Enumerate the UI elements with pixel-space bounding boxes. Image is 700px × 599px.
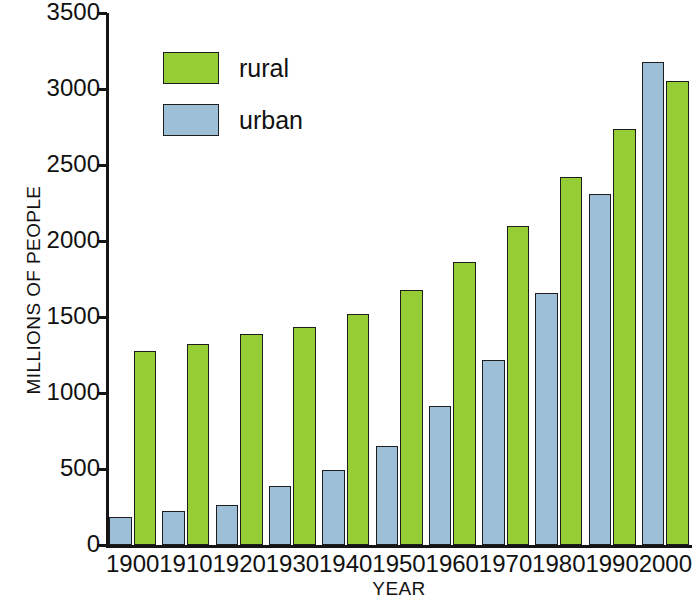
bar-urban-1950 bbox=[376, 446, 399, 545]
x-axis-tick-label-1990: 1990 bbox=[583, 549, 640, 579]
y-axis-tick-label: 3000 bbox=[34, 76, 100, 100]
x-axis-tick-label-2000: 2000 bbox=[637, 549, 694, 579]
bar-urban-1900 bbox=[109, 517, 132, 545]
bar-urban-2000 bbox=[642, 62, 665, 545]
y-axis-tick-label: 3500 bbox=[34, 0, 100, 24]
x-axis-tick-label-1950: 1950 bbox=[370, 549, 427, 579]
bar-rural-1900 bbox=[134, 351, 157, 545]
bar-rural-1990 bbox=[613, 129, 636, 545]
bar-rural-1940 bbox=[347, 314, 370, 545]
legend-swatch-rural bbox=[163, 52, 219, 84]
bar-rural-1910 bbox=[187, 344, 210, 545]
bar-rural-1950 bbox=[400, 290, 423, 545]
bar-urban-1920 bbox=[216, 505, 239, 545]
legend-entry-urban: urban bbox=[163, 104, 363, 156]
legend-swatch-urban bbox=[163, 104, 219, 136]
x-axis-tick-label-1980: 1980 bbox=[530, 549, 587, 579]
bar-urban-1990 bbox=[589, 194, 612, 545]
x-axis-tick-label-1920: 1920 bbox=[211, 549, 268, 579]
x-axis-tick-label-1930: 1930 bbox=[264, 549, 321, 579]
x-axis-tick-label-1900: 1900 bbox=[104, 549, 161, 579]
bar-urban-1980 bbox=[535, 293, 558, 545]
bar-urban-1930 bbox=[269, 486, 292, 545]
y-axis-tick-label: 0 bbox=[34, 532, 100, 556]
x-axis-tick-label-1940: 1940 bbox=[317, 549, 374, 579]
x-axis-tick-labels: 1900191019201930194019501960197019801990… bbox=[106, 549, 692, 581]
x-axis-tick-label-1970: 1970 bbox=[477, 549, 534, 579]
bar-urban-1960 bbox=[429, 406, 452, 545]
legend-label-rural: rural bbox=[239, 53, 289, 83]
x-axis-tick-label-1960: 1960 bbox=[424, 549, 481, 579]
legend-entry-rural: rural bbox=[163, 52, 363, 104]
y-axis-tick-label: 2500 bbox=[34, 152, 100, 176]
y-axis-tick-labels: 0500100015002000250030003500 bbox=[24, 0, 100, 599]
y-axis-tick-label: 1500 bbox=[34, 304, 100, 328]
legend-label-urban: urban bbox=[239, 105, 303, 135]
y-axis-tick-label: 2000 bbox=[34, 228, 100, 252]
bar-urban-1910 bbox=[162, 511, 185, 545]
bar-rural-1930 bbox=[293, 327, 316, 545]
bar-rural-1980 bbox=[560, 177, 583, 545]
bar-rural-1970 bbox=[507, 226, 530, 545]
bar-urban-1970 bbox=[482, 360, 505, 545]
x-axis-title: YEAR bbox=[106, 578, 692, 599]
population-bar-chart: MILLIONS OF PEOPLE 050010001500200025003… bbox=[0, 0, 700, 599]
y-axis-tick-label: 500 bbox=[34, 456, 100, 480]
bar-rural-1960 bbox=[453, 262, 476, 545]
y-axis-tick-label: 1000 bbox=[34, 380, 100, 404]
bar-urban-1940 bbox=[322, 470, 345, 545]
bar-rural-2000 bbox=[666, 81, 689, 545]
x-axis-tick-label-1910: 1910 bbox=[157, 549, 214, 579]
bar-rural-1920 bbox=[240, 334, 263, 545]
chart-legend: rural urban bbox=[163, 52, 363, 156]
